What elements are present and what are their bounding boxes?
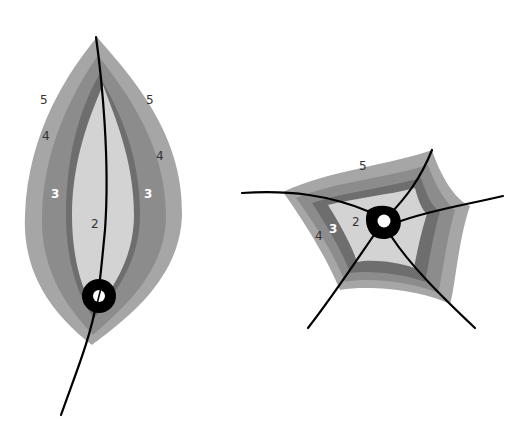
star-center-hole xyxy=(378,215,391,228)
leaf-label-left-4: 4 xyxy=(42,129,50,143)
leaf-figure: 5 5 4 4 3 3 2 xyxy=(25,37,182,415)
leaf-label-left-3: 3 xyxy=(51,187,59,201)
star-label-top-5: 5 xyxy=(359,159,367,173)
leaf-label-left-5: 5 xyxy=(40,93,48,107)
leaf-label-right-5: 5 xyxy=(146,93,154,107)
star-label-left-3: 3 xyxy=(329,222,337,236)
star-figure: 5 4 3 2 xyxy=(242,150,503,328)
star-label-left-4: 4 xyxy=(315,229,323,243)
leaf-label-right-3: 3 xyxy=(144,187,152,201)
diagram-canvas: 5 5 4 4 3 3 2 5 4 3 2 xyxy=(0,0,508,422)
leaf-label-right-4: 4 xyxy=(156,149,164,163)
star-label-left-2: 2 xyxy=(352,215,360,229)
leaf-label-center-2: 2 xyxy=(91,217,99,231)
